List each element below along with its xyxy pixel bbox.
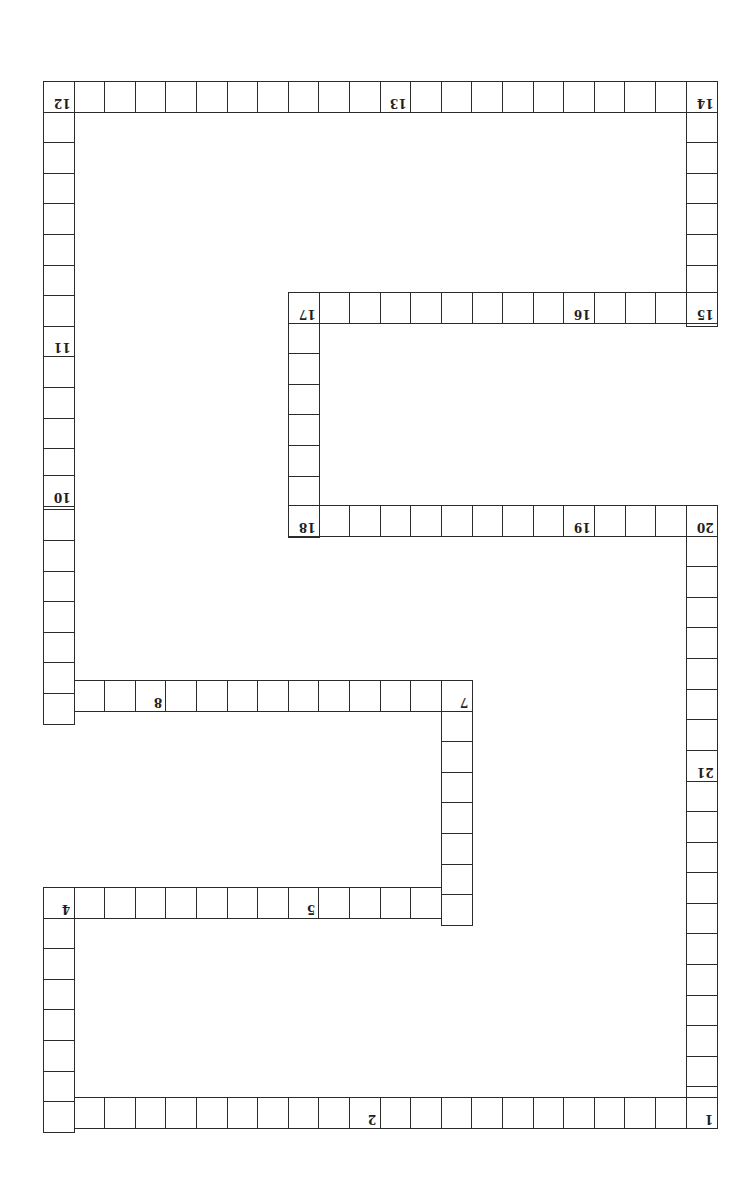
board-square[interactable]: [43, 203, 75, 235]
board-square[interactable]: [43, 295, 75, 327]
board-square[interactable]: [533, 292, 565, 324]
board-square[interactable]: [625, 505, 657, 537]
board-square[interactable]: [502, 505, 534, 537]
board-square[interactable]: [410, 505, 442, 537]
board-square[interactable]: [43, 1009, 75, 1041]
board-square[interactable]: [380, 887, 412, 919]
board-square[interactable]: [686, 1056, 718, 1088]
board-square[interactable]: [686, 173, 718, 205]
board-square[interactable]: [74, 887, 106, 919]
board-square-11[interactable]: 11: [43, 326, 75, 358]
board-square[interactable]: [43, 662, 75, 694]
board-square[interactable]: [533, 505, 565, 537]
board-square[interactable]: [686, 811, 718, 843]
board-square[interactable]: [441, 864, 473, 896]
board-square[interactable]: [196, 887, 228, 919]
board-square[interactable]: [594, 505, 626, 537]
board-square[interactable]: [441, 833, 473, 865]
board-square[interactable]: [349, 292, 381, 324]
board-square[interactable]: [502, 81, 534, 113]
board-square[interactable]: [227, 887, 259, 919]
board-square[interactable]: [74, 680, 106, 712]
board-square[interactable]: [533, 81, 565, 113]
board-square[interactable]: [410, 81, 442, 113]
board-square[interactable]: [441, 81, 473, 113]
board-square[interactable]: [686, 719, 718, 751]
board-square[interactable]: [686, 872, 718, 904]
board-square-8[interactable]: 8: [135, 680, 167, 712]
board-square[interactable]: [594, 1097, 626, 1129]
board-square[interactable]: [257, 1097, 289, 1129]
board-square[interactable]: [441, 711, 473, 743]
board-square[interactable]: [686, 142, 718, 174]
board-square[interactable]: [43, 632, 75, 664]
board-square-13[interactable]: 13: [380, 81, 412, 113]
board-square[interactable]: [227, 81, 259, 113]
board-square[interactable]: [288, 680, 320, 712]
board-square-2[interactable]: 2: [349, 1097, 381, 1129]
board-square[interactable]: [318, 81, 350, 113]
board-square[interactable]: [380, 680, 412, 712]
board-square[interactable]: [257, 81, 289, 113]
board-square[interactable]: [43, 387, 75, 419]
board-square[interactable]: [563, 1097, 595, 1129]
board-square-7[interactable]: 7: [441, 680, 473, 712]
board-square[interactable]: [288, 323, 320, 355]
board-square[interactable]: [43, 173, 75, 205]
board-square[interactable]: [472, 292, 504, 324]
board-square[interactable]: [686, 780, 718, 812]
board-square[interactable]: [686, 627, 718, 659]
board-square[interactable]: [655, 81, 687, 113]
board-square[interactable]: [441, 772, 473, 804]
board-square[interactable]: [410, 680, 442, 712]
board-square[interactable]: [686, 689, 718, 721]
board-square[interactable]: [594, 292, 626, 324]
board-square[interactable]: [288, 353, 320, 385]
board-square[interactable]: [686, 203, 718, 235]
board-square[interactable]: [227, 1097, 259, 1129]
board-square[interactable]: [471, 1097, 503, 1129]
board-square[interactable]: [625, 292, 657, 324]
board-square[interactable]: [441, 802, 473, 834]
board-square[interactable]: [318, 680, 350, 712]
board-square[interactable]: [349, 887, 381, 919]
board-square[interactable]: [441, 894, 473, 926]
board-square[interactable]: [686, 536, 718, 568]
board-square[interactable]: [43, 112, 75, 144]
board-square[interactable]: [196, 1097, 228, 1129]
board-square[interactable]: [472, 505, 504, 537]
board-square[interactable]: [624, 81, 656, 113]
board-square[interactable]: [686, 658, 718, 690]
board-square[interactable]: [410, 292, 442, 324]
board-square[interactable]: [410, 887, 442, 919]
board-square[interactable]: [686, 112, 718, 144]
board-square[interactable]: [686, 234, 718, 266]
board-square[interactable]: [74, 81, 106, 113]
board-square[interactable]: [43, 979, 75, 1011]
board-square[interactable]: [43, 234, 75, 266]
board-square[interactable]: [104, 1097, 136, 1129]
board-square[interactable]: [104, 680, 136, 712]
board-square-5[interactable]: 5: [288, 887, 320, 919]
board-square[interactable]: [43, 265, 75, 297]
board-square[interactable]: [74, 1097, 106, 1129]
board-square-4[interactable]: 4: [43, 887, 75, 919]
board-square[interactable]: [655, 292, 687, 324]
board-square[interactable]: [135, 887, 167, 919]
board-square-19[interactable]: 19: [563, 505, 595, 537]
board-square[interactable]: [349, 505, 381, 537]
board-square[interactable]: [43, 356, 75, 388]
board-square[interactable]: [43, 1040, 75, 1072]
board-square-15[interactable]: 15: [686, 292, 718, 324]
board-square[interactable]: [257, 680, 289, 712]
board-square[interactable]: [43, 948, 75, 980]
board-square[interactable]: [410, 1097, 442, 1129]
board-square-17[interactable]: 17: [288, 292, 320, 324]
board-square[interactable]: [196, 81, 228, 113]
board-square[interactable]: [43, 1101, 75, 1133]
board-square-21[interactable]: 21: [686, 750, 718, 782]
board-square[interactable]: [165, 1097, 197, 1129]
board-square[interactable]: [227, 680, 259, 712]
board-square[interactable]: [288, 414, 320, 446]
board-square[interactable]: [43, 540, 75, 572]
